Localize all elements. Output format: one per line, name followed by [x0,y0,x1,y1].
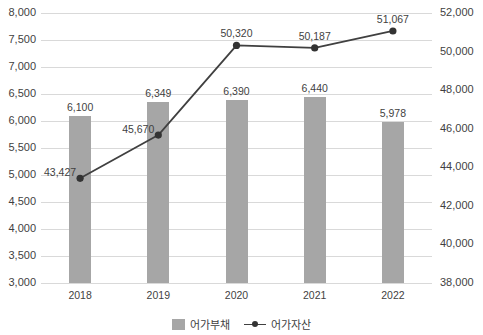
line-swatch-icon [244,319,266,330]
right-axis-tick-label: 52,000 [440,7,474,18]
bar-value-label: 6,100 [50,102,110,113]
right-axis-tick-label: 42,000 [440,200,474,211]
line-value-label: 51,067 [363,14,423,25]
left-axis-tick-label: 7,500 [8,34,36,45]
bar-value-label: 5,978 [363,108,423,119]
line-marker[interactable] [311,44,318,51]
legend-item-line[interactable]: 어가자산 [244,316,311,332]
line-value-label: 50,320 [207,28,267,39]
chart-legend: 어가부채 어가자산 [0,316,483,332]
left-axis-tick-label: 4,000 [8,223,36,234]
line-marker[interactable] [389,27,396,34]
line-value-label: 43,427 [16,167,76,178]
left-axis-tick-label: 6,000 [8,115,36,126]
left-axis-tick-label: 8,000 [8,7,36,18]
right-axis-tick-label: 46,000 [440,123,474,134]
line-marker[interactable] [233,42,240,49]
line-marker[interactable] [155,131,162,138]
bar-value-label: 6,390 [207,86,267,97]
right-axis-tick-label: 44,000 [440,161,474,172]
left-axis-tick-label: 7,000 [8,61,36,72]
right-axis-tick-label: 40,000 [440,238,474,249]
line-series [41,13,432,283]
left-axis-tick-label: 3,500 [8,250,36,261]
line-path [80,31,393,178]
bar-value-label: 6,440 [285,83,345,94]
legend-label-bar: 어가부채 [190,316,230,332]
left-axis-tick-label: 4,500 [8,196,36,207]
line-marker[interactable] [77,175,84,182]
x-axis-tick-label: 2018 [55,290,105,301]
bar-swatch-icon [172,319,185,330]
line-value-label: 45,670 [94,124,154,135]
line-markers [77,27,397,182]
x-axis-tick-label: 2020 [212,290,262,301]
right-axis-tick-label: 38,000 [440,277,474,288]
x-axis-tick-label: 2021 [290,290,340,301]
left-axis-tick-label: 3,000 [8,277,36,288]
legend-label-line: 어가자산 [271,316,311,332]
right-axis-tick-label: 48,000 [440,84,474,95]
left-axis-tick-label: 5,500 [8,142,36,153]
x-axis-tick-label: 2019 [133,290,183,301]
line-value-label: 50,187 [285,31,345,42]
bar-value-label: 6,349 [128,88,188,99]
gridline [41,283,432,284]
chart-container: 3,0003,5004,0004,5005,0005,5006,0006,500… [0,0,483,335]
legend-item-bar[interactable]: 어가부채 [172,316,230,332]
plot-area [41,13,432,283]
left-axis-tick-label: 6,500 [8,88,36,99]
right-axis-tick-label: 50,000 [440,46,474,57]
x-axis-tick-label: 2022 [368,290,418,301]
